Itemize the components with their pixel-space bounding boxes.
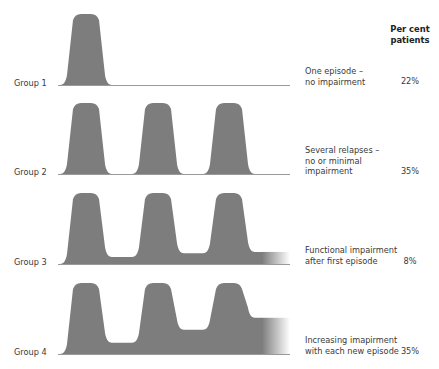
group-4-percent: 35% xyxy=(395,346,425,356)
group-1-percent: 22% xyxy=(395,76,425,86)
group-1-description: One episode – no impairment xyxy=(305,66,365,87)
group-2-description: Several relapses – no or minimal impairm… xyxy=(305,145,379,177)
course-diagram xyxy=(0,0,439,369)
group-4-description: Increasing imapirment with each new epis… xyxy=(305,335,399,356)
group-4-label: Group 4 xyxy=(14,347,47,357)
group-4-episode-curve xyxy=(58,283,262,354)
group-2-episode-curve xyxy=(58,103,290,174)
per-cent-patients-header: Per cent patients xyxy=(385,24,435,46)
group-4-residual-fade xyxy=(262,318,290,354)
header-line-2: patients xyxy=(385,35,435,46)
group-3-label: Group 3 xyxy=(14,257,47,267)
group-1-label: Group 1 xyxy=(14,78,47,88)
group-3-episode-curve xyxy=(58,193,262,264)
group-2-percent: 35% xyxy=(395,166,425,176)
group-2-label: Group 2 xyxy=(14,167,47,177)
header-line-1: Per cent xyxy=(385,24,435,35)
group-3-description: Functional impairment after first episod… xyxy=(305,245,397,266)
group-3-residual-fade xyxy=(262,252,290,264)
group-3-percent: 8% xyxy=(395,256,425,266)
group-1-episode-curve xyxy=(58,14,290,85)
